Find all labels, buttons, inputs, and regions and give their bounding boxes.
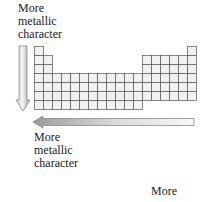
element-cell: [89, 92, 98, 101]
element-cell: [71, 74, 80, 83]
element-cell: [125, 92, 134, 101]
element-cell: [44, 83, 53, 92]
element-cell: [35, 47, 44, 56]
element-cell: [125, 101, 134, 110]
element-cell: [116, 83, 125, 92]
element-cell: [125, 83, 134, 92]
element-cell: [89, 83, 98, 92]
element-cell: [80, 92, 89, 101]
element-cell: [35, 83, 44, 92]
element-cell: [107, 101, 116, 110]
element-cell: [143, 74, 152, 83]
element-cell: [125, 74, 134, 83]
element-cell: [161, 83, 170, 92]
element-cell: [134, 74, 143, 83]
element-cell: [71, 83, 80, 92]
element-cell: [44, 74, 53, 83]
element-cell: [161, 74, 170, 83]
element-cell: [116, 74, 125, 83]
element-cell: [170, 65, 179, 74]
element-cell: [116, 92, 125, 101]
element-cell: [179, 83, 188, 92]
element-cell: [170, 74, 179, 83]
element-cell: [35, 101, 44, 110]
element-cell: [143, 92, 152, 101]
element-cell: [98, 92, 107, 101]
element-cell: [188, 92, 197, 101]
element-cell: [35, 74, 44, 83]
element-cell: [143, 83, 152, 92]
element-cell: [35, 56, 44, 65]
element-cell: [152, 74, 161, 83]
left-arrow-icon: [32, 115, 196, 129]
element-cell: [179, 65, 188, 74]
element-cell: [143, 56, 152, 65]
element-cell: [98, 83, 107, 92]
element-cell: [44, 56, 53, 65]
element-cell: [170, 92, 179, 101]
element-cell: [188, 74, 197, 83]
element-cell: [98, 101, 107, 110]
element-cell: [152, 65, 161, 74]
element-cell: [35, 92, 44, 101]
periodic-table-grid: [0, 0, 208, 120]
element-cell: [62, 101, 71, 110]
element-cell: [53, 101, 62, 110]
element-cell: [62, 83, 71, 92]
element-cell: [188, 83, 197, 92]
element-cell: [80, 101, 89, 110]
element-cell: [152, 56, 161, 65]
element-cell: [161, 92, 170, 101]
element-cell: [35, 65, 44, 74]
label-more-partial: More: [151, 185, 177, 198]
element-cell: [62, 74, 71, 83]
element-cell: [107, 83, 116, 92]
element-cell: [170, 56, 179, 65]
element-cell: [71, 92, 80, 101]
element-cell: [143, 65, 152, 74]
element-cell: [179, 92, 188, 101]
element-cell: [107, 92, 116, 101]
element-cell: [80, 83, 89, 92]
element-cell: [134, 92, 143, 101]
element-cell: [170, 83, 179, 92]
element-cell: [134, 83, 143, 92]
element-cell: [80, 74, 89, 83]
element-cell: [161, 56, 170, 65]
element-cell: [179, 56, 188, 65]
element-cell: [53, 92, 62, 101]
element-cell: [89, 101, 98, 110]
element-cell: [161, 65, 170, 74]
element-cell: [44, 92, 53, 101]
element-cell: [71, 101, 80, 110]
element-cell: [89, 74, 98, 83]
element-cell: [107, 74, 116, 83]
element-cell: [53, 74, 62, 83]
element-cell: [188, 56, 197, 65]
element-cell: [179, 74, 188, 83]
element-cell: [62, 92, 71, 101]
element-cell: [44, 101, 53, 110]
element-cell: [53, 83, 62, 92]
element-cell: [98, 74, 107, 83]
element-cell: [116, 101, 125, 110]
element-cell: [134, 101, 143, 110]
element-cell: [188, 65, 197, 74]
element-cell: [152, 83, 161, 92]
element-cell: [44, 65, 53, 74]
element-cell: [152, 92, 161, 101]
element-cell: [188, 47, 197, 56]
label-more-metallic-horizontal: More metallic character: [34, 131, 78, 170]
